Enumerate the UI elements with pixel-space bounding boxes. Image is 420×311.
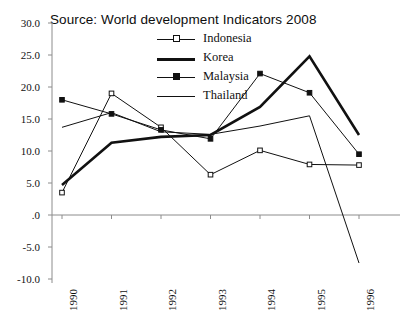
- legend-label: Malaysia: [203, 69, 249, 84]
- legend-key-thailand: [155, 87, 197, 106]
- marker-malaysia: [357, 152, 362, 157]
- legend-open-square-icon: [173, 35, 180, 42]
- marker-indonesia: [258, 148, 263, 153]
- legend-label: Indonesia: [203, 31, 252, 46]
- legend-key-malaysia: [155, 68, 197, 87]
- marker-malaysia: [60, 98, 65, 103]
- legend-key-korea: [155, 49, 197, 68]
- marker-malaysia: [307, 90, 312, 95]
- legend-label: Korea: [203, 50, 234, 65]
- marker-indonesia: [307, 162, 312, 167]
- marker-indonesia: [208, 172, 213, 177]
- series-line-indonesia: [62, 93, 359, 192]
- marker-malaysia: [208, 137, 213, 142]
- legend-line-icon: [157, 58, 195, 61]
- marker-indonesia: [109, 91, 114, 96]
- marker-indonesia: [60, 190, 65, 195]
- legend-filled-square-icon: [173, 73, 180, 80]
- legend-label: Thailand: [203, 88, 247, 103]
- legend-line-icon: [157, 96, 195, 97]
- marker-indonesia: [357, 163, 362, 168]
- legend-key-indonesia: [155, 30, 197, 49]
- marker-malaysia: [258, 71, 263, 76]
